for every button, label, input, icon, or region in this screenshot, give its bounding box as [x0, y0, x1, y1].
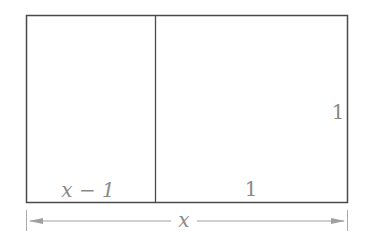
arrow-right-icon — [331, 218, 345, 224]
right-width-label: 1 — [245, 177, 258, 201]
arrow-left-icon — [29, 218, 43, 224]
golden-rectangle-diagram: x − 1 1 1 x — [0, 0, 370, 241]
left-width-label: x − 1 — [61, 178, 114, 202]
height-label: 1 — [332, 100, 345, 124]
outer-rectangle — [27, 16, 348, 203]
total-width-dimension: x — [27, 208, 348, 232]
total-width-label: x — [178, 208, 189, 232]
